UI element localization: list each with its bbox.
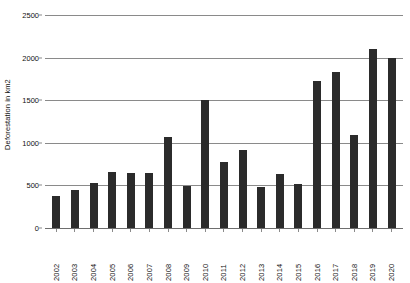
bar[interactable] [52,196,60,228]
x-tick-mark [149,229,150,232]
x-tick-mark [242,229,243,232]
x-tick-label: 2006 [126,235,135,281]
x-tick-label: 2018 [350,235,359,281]
x-tick-label: 2008 [164,235,173,281]
x-tick-slot: 2003 [66,229,85,281]
x-tick-slot: 2005 [103,229,122,281]
x-tick-slot: 2011 [215,229,234,281]
bar-slot [47,15,66,228]
bar-slot [326,15,345,228]
x-tick-label: 2016 [313,235,322,281]
bar[interactable] [127,173,135,228]
y-tick-label: 2000 [22,53,39,62]
y-tick-mark [39,100,42,101]
bar[interactable] [201,100,209,228]
bar[interactable] [257,187,265,228]
x-tick-slot: 2015 [289,229,308,281]
x-tick-slot: 2014 [271,229,290,281]
bar-slot [215,15,234,228]
y-tick-mark [39,57,42,58]
bar-slot [364,15,383,228]
x-tick-label: 2019 [368,235,377,281]
bar[interactable] [332,72,340,228]
bar-slot [140,15,159,228]
bar[interactable] [108,172,116,228]
bar-slot [233,15,252,228]
bar-slot [252,15,271,228]
x-tick-mark [205,229,206,232]
x-tick-label: 2010 [201,235,210,281]
x-tick-label: 2009 [182,235,191,281]
x-tick-slot: 2002 [47,229,66,281]
x-tick-label: 2013 [257,235,266,281]
bar[interactable] [350,135,358,228]
y-axis-title-text: Deforestation in km2 [3,79,12,150]
x-tick-label: 2003 [70,235,79,281]
x-tick-mark [93,229,94,232]
bar[interactable] [71,190,79,228]
x-tick-mark [112,229,113,232]
bar-slot [345,15,364,228]
y-tick-label: 1500 [22,96,39,105]
y-axis-title: Deforestation in km2 [0,0,14,228]
x-tick-slot: 2004 [84,229,103,281]
bar[interactable] [388,58,396,228]
x-tick-mark [279,229,280,232]
bar[interactable] [294,184,302,228]
y-tick-mark [39,228,42,229]
bar-slot [122,15,141,228]
x-tick-label: 2014 [275,235,284,281]
bar[interactable] [369,49,377,228]
x-tick-label: 2004 [89,235,98,281]
bar[interactable] [145,173,153,228]
x-tick-mark [130,229,131,232]
x-tick-label: 2015 [294,235,303,281]
bar-slot [196,15,215,228]
x-tick-slot: 2019 [364,229,383,281]
x-tick-label: 2012 [238,235,247,281]
x-tick-slot: 2016 [308,229,327,281]
x-tick-label: 2007 [145,235,154,281]
x-tick-label: 2002 [52,235,61,281]
x-tick-mark [391,229,392,232]
x-tick-slot: 2013 [252,229,271,281]
y-tick-label: 1000 [22,138,39,147]
x-tick-slot: 2006 [122,229,141,281]
bar[interactable] [164,137,172,228]
x-tick-mark [335,229,336,232]
plot-area [45,15,403,228]
bar[interactable] [276,174,284,228]
x-axis-ticks: 2002200320042005200620072008200920102011… [45,229,403,281]
bar[interactable] [90,183,98,228]
x-tick-mark [186,229,187,232]
x-tick-slot: 2017 [326,229,345,281]
y-tick-label: 500 [26,181,39,190]
y-axis-ticks: 05001000150020002500 [14,15,42,228]
x-tick-mark [317,229,318,232]
bar-slot [271,15,290,228]
y-tick-mark [39,15,42,16]
x-tick-slot: 2009 [177,229,196,281]
bar[interactable] [239,150,247,228]
x-tick-mark [74,229,75,232]
x-tick-slot: 2018 [345,229,364,281]
bar[interactable] [183,186,191,228]
x-tick-mark [372,229,373,232]
bar-slot [159,15,178,228]
x-tick-mark [354,229,355,232]
bar-slot [289,15,308,228]
bar-slot [103,15,122,228]
bar[interactable] [220,162,228,228]
x-tick-label: 2020 [387,235,396,281]
x-tick-slot: 2007 [140,229,159,281]
x-tick-mark [223,229,224,232]
bars-container [45,15,403,228]
x-tick-mark [168,229,169,232]
x-tick-label: 2017 [331,235,340,281]
x-tick-slot: 2012 [233,229,252,281]
y-tick-mark [39,142,42,143]
bar-chart: Deforestation in km2 0500100015002000250… [0,0,410,283]
x-tick-mark [261,229,262,232]
bar[interactable] [313,81,321,228]
bar-slot [308,15,327,228]
